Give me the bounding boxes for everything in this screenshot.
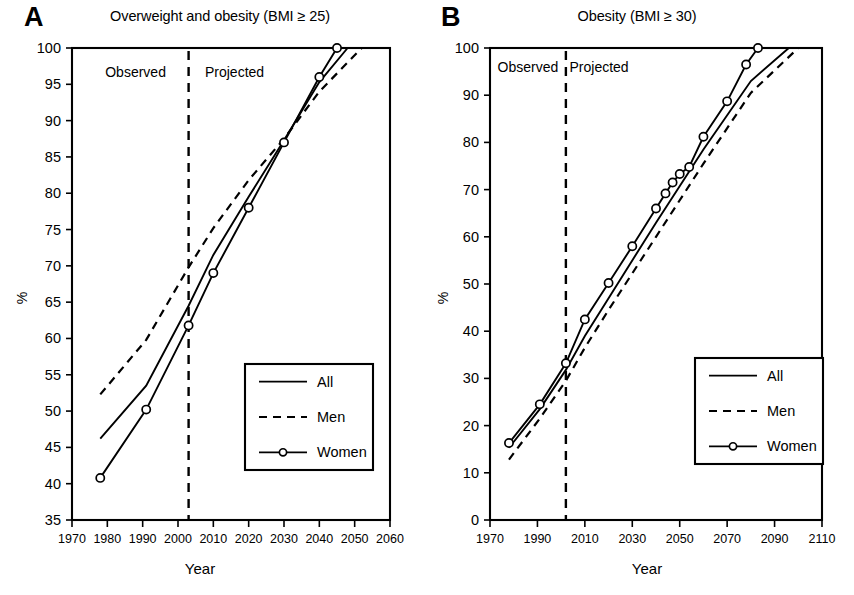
projected-region-label: Projected [205, 64, 264, 80]
data-point-women [280, 138, 288, 146]
legend-label-men: Men [317, 409, 345, 425]
x-tick-label: 1970 [58, 532, 86, 546]
y-tick-label: 35 [45, 512, 61, 528]
data-point-women [723, 97, 731, 105]
observed-region-label: Observed [105, 64, 166, 80]
y-tick-label: 50 [45, 403, 61, 419]
y-tick-label: 10 [463, 465, 479, 481]
projected-region-label: Projected [570, 59, 629, 75]
data-point-women [96, 474, 104, 482]
data-point-women [581, 315, 589, 323]
y-tick-label: 55 [45, 367, 61, 383]
legend-label-all: All [767, 368, 783, 384]
panel-b: B Obesity (BMI ≥ 30) % Year 010203040506… [427, 0, 854, 595]
y-tick-label: 40 [45, 476, 61, 492]
data-point-women [676, 170, 684, 178]
y-tick-label: 100 [37, 40, 61, 56]
y-tick-label: 100 [455, 40, 479, 56]
panel-b-plot: 0102030405060708090100197019902010203020… [427, 0, 854, 595]
legend-label-women: Women [767, 438, 817, 454]
y-tick-label: 30 [463, 370, 479, 386]
x-tick-label: 2010 [571, 532, 599, 546]
data-point-women [685, 163, 693, 171]
y-tick-label: 40 [463, 323, 479, 339]
y-tick-label: 70 [45, 258, 61, 274]
data-point-women [628, 242, 636, 250]
legend-marker-women [729, 443, 736, 450]
series-line-men [100, 48, 361, 394]
legend-label-all: All [317, 374, 333, 390]
y-tick-label: 90 [45, 113, 61, 129]
y-tick-label: 80 [463, 134, 479, 150]
data-point-women [209, 269, 217, 277]
y-tick-label: 95 [45, 76, 61, 92]
y-tick-label: 90 [463, 87, 479, 103]
y-tick-label: 70 [463, 182, 479, 198]
data-point-women [562, 359, 570, 367]
x-tick-label: 2050 [341, 532, 369, 546]
x-tick-label: 2050 [666, 532, 694, 546]
x-tick-label: 2060 [376, 532, 404, 546]
x-tick-label: 2030 [618, 532, 646, 546]
data-point-women [536, 400, 544, 408]
panel-a-plot: 3540455055606570758085909510019701980199… [0, 0, 427, 595]
data-point-women [699, 133, 707, 141]
legend-label-women: Women [317, 444, 367, 460]
data-point-women [333, 44, 341, 52]
y-tick-label: 75 [45, 222, 61, 238]
y-tick-label: 65 [45, 294, 61, 310]
y-tick-label: 80 [45, 185, 61, 201]
y-tick-label: 60 [463, 229, 479, 245]
x-tick-label: 1980 [93, 532, 121, 546]
x-tick-label: 2110 [809, 532, 836, 546]
y-tick-label: 0 [471, 512, 479, 528]
panel-a: A Overweight and obesity (BMI ≥ 25) % Ye… [0, 0, 427, 595]
data-point-women [669, 178, 677, 186]
x-tick-label: 2010 [199, 532, 227, 546]
data-point-women [742, 60, 750, 68]
data-point-women [505, 439, 513, 447]
data-point-women [315, 73, 323, 81]
data-point-women [754, 44, 762, 52]
legend-label-men: Men [767, 403, 795, 419]
y-tick-label: 45 [45, 439, 61, 455]
data-point-women [661, 189, 669, 197]
data-point-women [604, 279, 612, 287]
x-tick-label: 2070 [713, 532, 741, 546]
y-tick-label: 50 [463, 276, 479, 292]
x-tick-label: 1970 [476, 532, 504, 546]
x-tick-label: 2040 [305, 532, 333, 546]
y-tick-label: 85 [45, 149, 61, 165]
data-point-women [245, 204, 253, 212]
x-tick-label: 1990 [129, 532, 157, 546]
observed-region-label: Observed [498, 59, 559, 75]
data-point-women [185, 321, 193, 329]
figure-root: A Overweight and obesity (BMI ≥ 25) % Ye… [0, 0, 854, 595]
x-tick-label: 2030 [270, 532, 298, 546]
legend-marker-women [279, 449, 286, 456]
x-tick-label: 1990 [524, 532, 552, 546]
x-tick-label: 2090 [761, 532, 789, 546]
data-point-women [652, 204, 660, 212]
data-point-women [142, 406, 150, 414]
x-tick-label: 2000 [164, 532, 192, 546]
y-tick-label: 20 [463, 418, 479, 434]
x-tick-label: 2020 [235, 532, 263, 546]
y-tick-label: 60 [45, 330, 61, 346]
